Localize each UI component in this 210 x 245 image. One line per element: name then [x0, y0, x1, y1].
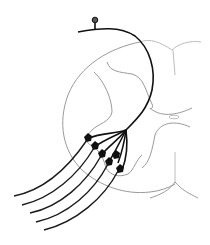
sensory-neuron — [78, 17, 153, 130]
motor-neuron-1 — [84, 133, 92, 142]
spinal-cord-outline — [63, 40, 201, 198]
motor-neuron-2 — [91, 141, 99, 150]
diagram-canvas — [0, 0, 210, 245]
central-canal — [169, 115, 179, 119]
spinal-cord-diagram — [0, 0, 210, 245]
motor-neuron-5 — [112, 150, 120, 159]
sensory-cell-body — [92, 17, 98, 23]
